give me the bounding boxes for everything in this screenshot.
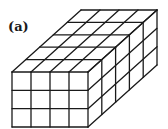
right-face-depth-line: [88, 47, 157, 109]
top-face-depth-line: [31, 10, 100, 72]
top-face-depth-line: [50, 10, 119, 72]
right-face-depth-line: [88, 65, 157, 127]
cube-grid-diagram: [0, 0, 168, 129]
right-face-depth-line: [88, 10, 157, 72]
top-face-depth-line: [69, 10, 138, 72]
top-face-depth-line: [12, 10, 81, 72]
